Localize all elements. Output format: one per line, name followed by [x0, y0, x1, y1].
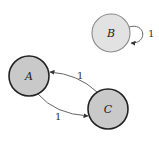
node-b-label: B	[106, 27, 115, 40]
edge-a-to-c-weight: 1	[55, 111, 61, 122]
edge-c-to-a	[50, 72, 97, 92]
graph-canvas: 1 1 1 A B C	[0, 0, 159, 141]
node-a-label: A	[24, 70, 33, 83]
node-c-label: C	[104, 103, 113, 116]
edge-a-to-c	[38, 94, 88, 116]
edge-b-self-loop-weight: 1	[148, 28, 154, 39]
node-a: A	[9, 56, 49, 96]
edge-b-self-loop	[129, 26, 143, 43]
node-b: B	[92, 14, 130, 52]
edge-c-to-a-weight: 1	[77, 70, 83, 81]
node-c: C	[88, 89, 128, 129]
